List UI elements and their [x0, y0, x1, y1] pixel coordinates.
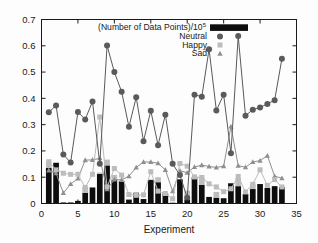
bar — [250, 189, 256, 203]
data-point-marker — [272, 97, 278, 103]
data-point-marker — [133, 94, 139, 100]
bar — [214, 198, 220, 204]
data-point-marker — [46, 159, 51, 164]
data-point-marker — [141, 192, 146, 197]
data-point-marker — [75, 109, 81, 115]
data-point-marker — [83, 185, 88, 190]
y-tick-label: 0.7 — [22, 14, 35, 25]
data-point-marker — [61, 171, 66, 176]
y-tick-label: 0.4 — [22, 93, 35, 104]
y-tick-label: 0.3 — [22, 119, 35, 130]
data-point-marker — [207, 181, 212, 186]
data-point-marker — [75, 172, 80, 177]
x-axis-title: Experiment — [144, 224, 195, 235]
data-point-marker — [236, 174, 241, 179]
data-point-marker — [199, 175, 204, 180]
bar — [82, 193, 88, 204]
data-point-marker — [192, 174, 197, 179]
data-point-marker — [90, 99, 96, 105]
bar — [119, 181, 125, 204]
legend-swatch-circle — [217, 34, 223, 40]
data-point-marker — [68, 159, 74, 165]
bar — [97, 174, 103, 204]
data-point-marker — [82, 116, 88, 122]
x-tick-label: 20 — [182, 208, 193, 219]
data-point-marker — [148, 108, 154, 114]
data-point-marker — [257, 105, 263, 111]
data-point-marker — [105, 184, 110, 189]
bar-overlay-segment — [214, 192, 220, 198]
data-point-marker — [250, 182, 255, 187]
legend-swatch-square — [218, 43, 223, 48]
bar — [141, 199, 147, 203]
bar — [235, 186, 241, 203]
x-tick-label: 25 — [218, 208, 229, 219]
y-tick-label: 0.1 — [22, 172, 35, 183]
x-tick-label: 15 — [145, 208, 156, 219]
bar-overlay-segment — [97, 172, 103, 173]
bar — [265, 188, 271, 204]
data-point-marker — [60, 152, 66, 158]
bar — [199, 185, 205, 204]
data-point-marker — [279, 184, 284, 189]
data-point-marker — [243, 113, 249, 119]
data-point-marker — [162, 112, 168, 118]
data-point-marker — [221, 92, 227, 98]
data-point-marker — [170, 161, 176, 167]
data-point-marker — [177, 161, 182, 166]
x-tick-label: 0 — [39, 208, 44, 219]
bar — [272, 186, 278, 203]
chart-figure: 00.10.20.30.40.50.60.705101520253035 (Nu… — [0, 0, 318, 243]
x-tick-label: 5 — [75, 208, 80, 219]
data-point-marker — [112, 166, 117, 171]
data-point-marker — [213, 107, 219, 113]
data-point-marker — [68, 172, 73, 177]
data-point-marker — [264, 101, 270, 107]
chart-svg: 00.10.20.30.40.50.60.705101520253035 (Nu… — [0, 0, 318, 243]
bar — [177, 179, 183, 203]
data-point-marker — [126, 192, 131, 197]
bar — [192, 177, 198, 203]
data-point-marker — [54, 167, 59, 172]
data-point-marker — [250, 107, 256, 113]
data-point-marker — [119, 173, 124, 178]
y-tick-label: 0 — [30, 198, 35, 209]
bar-overlay-segment — [155, 177, 161, 182]
data-point-marker — [258, 167, 263, 172]
data-point-marker — [104, 43, 110, 49]
bar — [243, 194, 249, 203]
legend-swatch-bar — [210, 24, 248, 31]
y-tick-label: 0.5 — [22, 66, 35, 77]
data-point-marker — [221, 189, 226, 194]
data-point-marker — [156, 189, 161, 194]
data-point-marker — [279, 56, 285, 62]
data-point-marker — [53, 102, 59, 108]
x-tick-label: 35 — [291, 208, 302, 219]
data-point-marker — [170, 196, 175, 201]
bar — [206, 197, 212, 204]
legend-label-triangle: Sad — [192, 48, 208, 58]
bar — [126, 200, 132, 204]
bar — [279, 187, 285, 203]
y-tick-label: 0.6 — [22, 40, 35, 51]
data-point-marker — [126, 124, 132, 130]
data-point-marker — [235, 33, 241, 39]
data-point-marker — [111, 69, 117, 75]
data-point-marker — [243, 189, 248, 194]
data-point-marker — [214, 184, 219, 189]
data-point-marker — [228, 150, 234, 156]
data-point-marker — [163, 191, 168, 196]
x-tick-label: 10 — [109, 208, 120, 219]
figure-background — [0, 0, 318, 243]
x-tick-label: 30 — [255, 208, 266, 219]
data-point-marker — [199, 94, 205, 100]
data-point-marker — [155, 142, 161, 148]
data-point-marker — [192, 92, 198, 98]
data-point-marker — [177, 172, 183, 178]
data-point-marker — [265, 183, 270, 188]
data-point-marker — [119, 89, 125, 95]
y-tick-label: 0.2 — [22, 145, 35, 156]
data-point-marker — [46, 109, 52, 115]
data-point-marker — [141, 138, 147, 144]
data-point-marker — [148, 169, 153, 174]
